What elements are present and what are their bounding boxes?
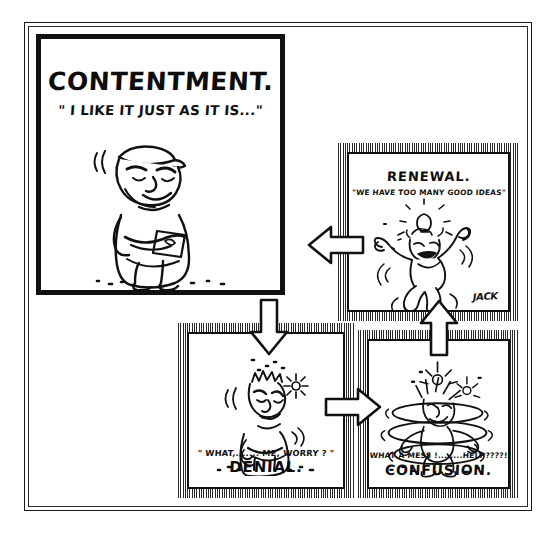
panel-contentment-inner: CONTENTMENT. " I LIKE IT JUST AS IT IS..… xyxy=(41,39,280,290)
panel-contentment[interactable]: CONTENTMENT. " I LIKE IT JUST AS IT IS..… xyxy=(36,34,285,295)
cartoon-scene: CONTENTMENT. " I LIKE IT JUST AS IT IS..… xyxy=(0,0,556,533)
arrow-renewal-to-contentment xyxy=(305,219,367,271)
denial-caption: " WHAT,....... ME, WORRY ? " DENIAL. xyxy=(189,449,343,475)
confusion-caption: WHAT A MESS !........HELP????! CONFUSION… xyxy=(369,452,508,477)
confusion-quote: WHAT A MESS !........HELP????! xyxy=(369,452,509,460)
renewal-quote: "WE HAVE TOO MANY GOOD IDEAS" xyxy=(351,189,505,196)
contentment-quote: " I LIKE IT JUST AS IT IS..." xyxy=(58,104,264,118)
contentment-figure-art xyxy=(41,131,280,290)
confusion-title: CONFUSION. xyxy=(369,463,509,477)
denial-title: DENIAL. xyxy=(189,460,344,475)
arrow-confusion-to-renewal xyxy=(413,297,465,359)
renewal-title: RENEWAL. xyxy=(386,170,470,183)
denial-quote: " WHAT,....... ME, WORRY ? " xyxy=(189,449,344,457)
panel-confusion-inner: WHAT A MESS !........HELP????! CONFUSION… xyxy=(367,339,510,489)
artist-signature: JACK xyxy=(473,290,499,303)
contentment-title: CONTENTMENT. xyxy=(47,69,274,94)
arrow-denial-to-confusion xyxy=(322,382,384,432)
arrow-contentment-to-denial xyxy=(243,296,295,358)
panel-renewal-inner: RENEWAL. "WE HAVE TOO MANY GOOD IDEAS" xyxy=(347,152,510,312)
